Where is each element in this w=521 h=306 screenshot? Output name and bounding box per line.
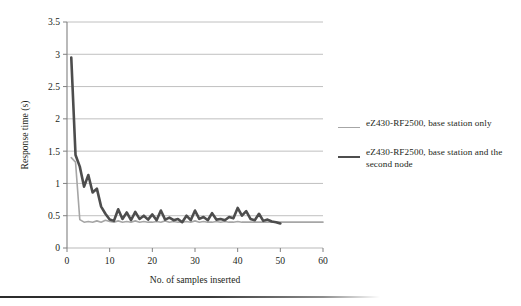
line-chart: 00.511.522.533.50102030405060No. of samp… [0,0,340,290]
x-axis-tick-label: 20 [148,255,158,266]
footer-rule [0,296,380,298]
legend-swatch-dark-line-icon [338,151,360,163]
x-axis-tick-label: 50 [276,255,286,266]
y-axis-tick-label: 3 [55,49,60,60]
legend-item-label: eZ430-RF2500, base station only [366,118,492,130]
series-line-base-station-and-second-node [71,58,280,224]
legend-swatch-light-line-icon [338,122,360,134]
figure-container: 00.511.522.533.50102030405060No. of samp… [0,0,521,306]
y-axis-tick-label: 0 [55,242,60,253]
x-axis-tick-label: 10 [105,255,115,266]
x-axis-tick-label: 40 [233,255,243,266]
y-axis-tick-label: 0.5 [48,210,60,221]
x-axis-tick-label: 60 [318,255,328,266]
chart-plot-area: 00.511.522.533.50102030405060No. of samp… [0,0,340,290]
chart-legend: eZ430-RF2500, base station only eZ430-RF… [338,118,518,183]
legend-item-base-station-and-second-node: eZ430-RF2500, base station and the secon… [338,147,518,170]
x-axis-title: No. of samples inserted [150,274,241,285]
legend-item-label: eZ430-RF2500, base station and the secon… [366,147,518,170]
x-axis-tick-label: 0 [65,255,70,266]
y-axis-title: Response time (s) [19,101,31,170]
y-axis-tick-label: 1 [55,178,60,189]
legend-item-base-station-only: eZ430-RF2500, base station only [338,118,518,134]
y-axis-tick-label: 2.5 [48,81,60,92]
y-axis-tick-label: 1.5 [48,146,60,157]
y-axis-tick-label: 3.5 [48,16,60,27]
x-axis-tick-label: 30 [190,255,200,266]
y-axis-tick-label: 2 [55,113,60,124]
